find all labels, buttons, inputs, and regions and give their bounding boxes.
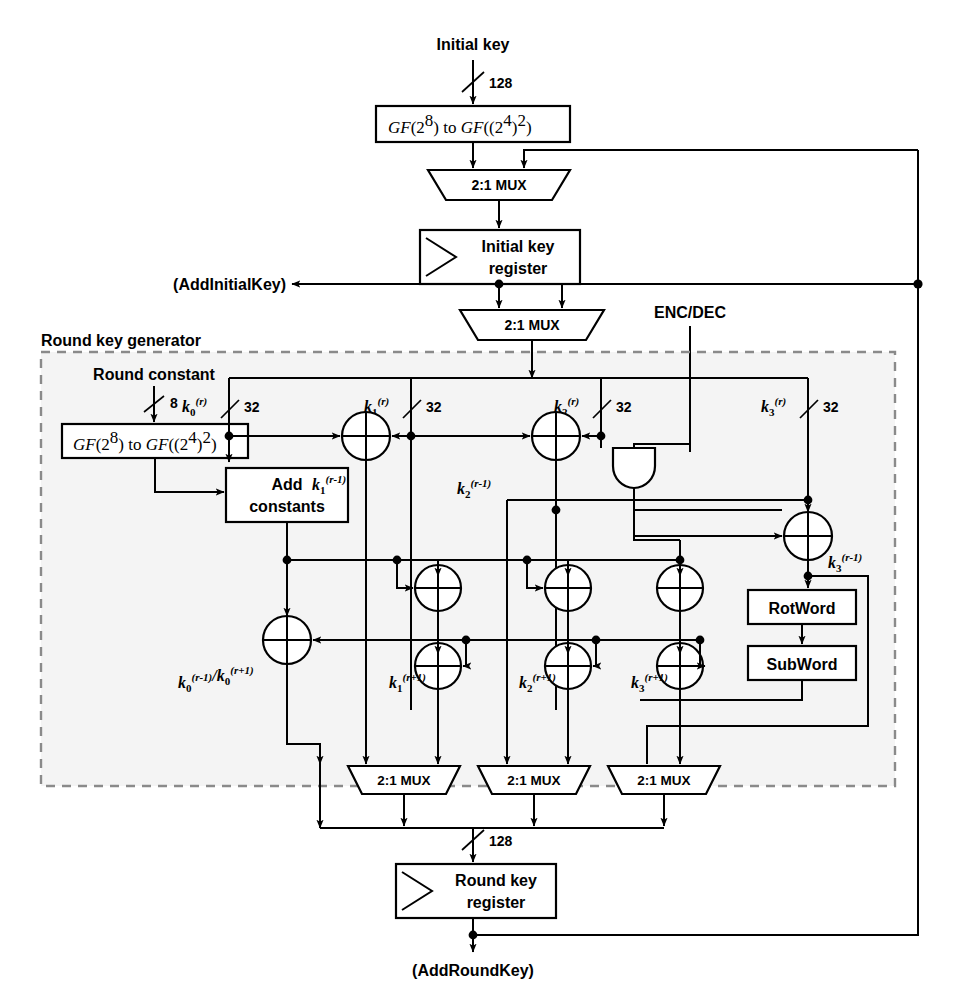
mux-k1-label: 2:1 MUX [377, 773, 430, 788]
add-constants-line1: Add [271, 476, 302, 493]
width-128-bottom-label: 128 [489, 833, 513, 849]
wire-feedback-to-mux1 [524, 150, 918, 168]
round-key-register-line2: register [467, 894, 526, 911]
initial-key-register-line1: Initial key [482, 238, 555, 255]
width-128-top-label: 128 [489, 75, 513, 91]
and-gate [613, 448, 655, 488]
subword-label: SubWord [767, 656, 838, 673]
diagram-canvas: Initial key 128 GF(28) to GF((24)2) 2:1 … [0, 0, 961, 981]
add-round-key-label: (AddRoundKey) [412, 962, 534, 979]
junction-dot-ikreg [495, 280, 504, 289]
wire-feedback-to-mux2 [562, 284, 918, 308]
round-key-generator-label: Round key generator [41, 332, 201, 349]
add-initial-key-label: (AddInitialKey) [173, 276, 286, 293]
width-32-k1-label: 32 [426, 399, 442, 415]
width-32-k0-label: 32 [244, 399, 260, 415]
rotword-label: RotWord [768, 600, 835, 617]
enc-dec-label: ENC/DEC [654, 304, 726, 321]
initial-key-label: Initial key [437, 36, 510, 53]
width-32-k3-label: 32 [823, 399, 839, 415]
initial-key-register-line2: register [489, 260, 548, 277]
add-constants-line2: constants [249, 498, 325, 515]
round-constant-label: Round constant [93, 366, 215, 383]
width-8-label: 8 [170, 395, 178, 411]
round-key-register-line1: Round key [455, 872, 537, 889]
block-diagram-svg: Initial key 128 GF(28) to GF((24)2) 2:1 … [0, 0, 961, 981]
group-shading [41, 352, 895, 786]
mux-k3-label: 2:1 MUX [637, 773, 690, 788]
width-32-k2-label: 32 [616, 399, 632, 415]
mux-k2-label: 2:1 MUX [507, 773, 560, 788]
mux-top-initial-label: 2:1 MUX [471, 177, 527, 193]
mux-initial-out-label: 2:1 MUX [504, 317, 560, 333]
junction-dot-k0-rowA [225, 432, 234, 441]
